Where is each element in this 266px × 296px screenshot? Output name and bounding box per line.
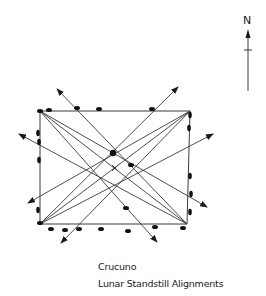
alignment-arrow <box>61 111 190 243</box>
stone-marker <box>188 209 192 215</box>
stone-marker <box>149 107 155 111</box>
stone-marker <box>128 163 134 167</box>
stone-marker <box>76 227 82 231</box>
stone-marker <box>180 226 186 230</box>
north-label: N <box>243 14 251 27</box>
stone-marker <box>74 106 80 110</box>
stone-marker <box>189 191 193 197</box>
center-mark <box>112 165 118 171</box>
north-arrow-icon <box>244 29 252 91</box>
stone-marker <box>36 207 40 213</box>
alignment-arrow <box>40 87 178 224</box>
stone-marker <box>125 229 131 233</box>
stone-marker <box>152 225 158 229</box>
stone-marker <box>62 228 68 232</box>
stone-marker <box>37 139 41 145</box>
stone-marker <box>188 173 192 179</box>
stone-marker <box>187 125 191 131</box>
stone-marker <box>98 227 104 231</box>
stone-marker <box>37 157 41 163</box>
stone-marker <box>37 109 43 113</box>
diagram-subtitle: Lunar Standstill Alignments <box>98 278 223 289</box>
alignment-arrow <box>40 111 157 242</box>
stone-marker <box>96 107 102 111</box>
crucuno-alignment-diagram <box>0 0 266 296</box>
stone-marker <box>46 108 52 112</box>
stone-marker <box>36 130 40 136</box>
diagram-title: Crucuno <box>98 261 136 272</box>
central-stone <box>110 150 116 156</box>
stone-marker <box>48 227 54 231</box>
stone-marker <box>123 206 129 210</box>
stone-marker <box>188 112 192 118</box>
stone-marker <box>37 221 43 225</box>
